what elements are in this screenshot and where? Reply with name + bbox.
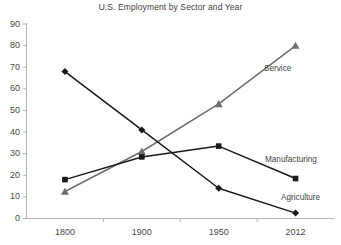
data-point-marker bbox=[292, 210, 299, 217]
series-label-agriculture: Agriculture bbox=[281, 193, 320, 202]
y-axis-tick-label: 10 bbox=[0, 192, 20, 201]
x-axis-tick-label: 1900 bbox=[120, 228, 164, 237]
data-point-marker bbox=[61, 188, 69, 195]
chart-plot-area bbox=[0, 0, 341, 245]
series-label-manufacturing: Manufacturing bbox=[265, 155, 317, 164]
x-axis-tick-label: 2012 bbox=[274, 228, 318, 237]
x-axis-tick-label: 1800 bbox=[43, 228, 87, 237]
x-axis-tick-label: 1950 bbox=[197, 228, 241, 237]
y-axis-tick-label: 20 bbox=[0, 171, 20, 180]
data-point-marker bbox=[292, 42, 300, 49]
y-axis-tick-label: 0 bbox=[0, 214, 20, 223]
chart-container: U.S. Employment by Sector and Year 90807… bbox=[0, 0, 341, 245]
y-axis-tick-label: 60 bbox=[0, 84, 20, 93]
series-label-service: Service bbox=[264, 64, 291, 73]
y-axis-tick-label: 70 bbox=[0, 63, 20, 72]
y-axis-tick-label: 90 bbox=[0, 20, 20, 29]
data-point-marker bbox=[138, 148, 146, 155]
series-line bbox=[65, 72, 296, 214]
series-manufacturing bbox=[62, 143, 298, 182]
series-agriculture bbox=[61, 68, 299, 217]
y-axis-tick-label: 80 bbox=[0, 41, 20, 50]
y-axis-tick-label: 50 bbox=[0, 106, 20, 115]
data-point-marker bbox=[293, 176, 299, 182]
data-point-marker bbox=[62, 177, 68, 183]
series-line bbox=[65, 146, 296, 179]
y-axis-tick-label: 30 bbox=[0, 149, 20, 158]
y-axis-tick-label: 40 bbox=[0, 128, 20, 137]
data-point-marker bbox=[216, 143, 222, 149]
data-point-marker bbox=[139, 154, 145, 160]
